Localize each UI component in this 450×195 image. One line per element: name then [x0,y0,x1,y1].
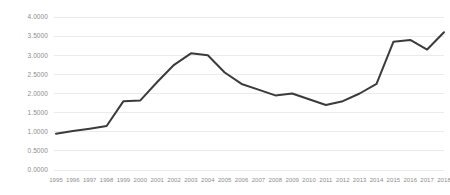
y-axis-tick-labels: 0.00000.50001.00001.50002.00002.50003.00… [28,13,49,173]
x-axis-tick-label: 2016 [403,177,417,183]
x-axis-tick-label: 2010 [302,177,316,183]
gridlines [54,17,444,170]
x-axis-tick-label: 1997 [83,177,97,183]
y-axis-tick-label: 2.5000 [28,71,49,78]
chart-plot-area: 0.00000.50001.00001.50002.00002.50003.00… [0,0,450,195]
x-axis-tick-label: 2015 [387,177,401,183]
x-axis-tick-labels: 1995199619971998199920002001200220032004… [49,177,450,183]
x-axis-tick-label: 2003 [184,177,198,183]
x-axis-tick-label: 2004 [201,177,215,183]
x-axis-tick-label: 2001 [150,177,164,183]
x-axis-tick-label: 2006 [235,177,249,183]
x-axis-tick-label: 2013 [353,177,367,183]
x-axis-tick-label: 2000 [134,177,148,183]
y-axis-tick-label: 3.5000 [28,32,49,39]
data-series-line [56,32,444,133]
y-axis-tick-label: 4.0000 [28,13,49,20]
x-axis-tick-label: 2011 [319,177,333,183]
y-axis-tick-label: 0.0000 [28,166,49,173]
y-axis-tick-label: 1.0000 [28,128,49,135]
line-chart: 0.00000.50001.00001.50002.00002.50003.00… [0,0,450,195]
x-axis-tick-label: 2017 [420,177,434,183]
x-axis-tick-label: 1998 [100,177,114,183]
x-axis-tick-label: 2005 [218,177,232,183]
x-axis-tick-label: 1995 [49,177,63,183]
x-axis-tick-label: 1996 [66,177,80,183]
x-axis-tick-label: 2014 [370,177,384,183]
x-axis-tick-label: 1999 [117,177,131,183]
x-axis-tick-label: 2007 [252,177,266,183]
x-axis-tick-label: 2009 [285,177,299,183]
y-axis-tick-label: 3.0000 [28,52,49,59]
x-axis-tick-label: 2008 [269,177,283,183]
y-axis-tick-label: 1.5000 [28,109,49,116]
x-axis-tick-label: 2002 [167,177,181,183]
y-axis-tick-label: 2.0000 [28,90,49,97]
x-axis-tick-label: 2012 [336,177,350,183]
x-axis-tick-label: 2018 [437,177,450,183]
y-axis-tick-label: 0.5000 [28,147,49,154]
